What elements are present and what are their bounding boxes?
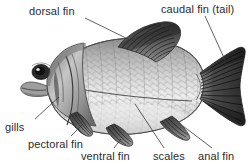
fish-eye [32, 63, 50, 80]
leader-dorsal-fin [85, 18, 130, 40]
label-anal-fin: anal fin [198, 150, 234, 162]
label-scales: scales [153, 150, 185, 162]
anal-fin [160, 116, 190, 141]
fish-anatomy-diagram: dorsal fin caudal fin (tail) gills pecto… [0, 0, 251, 164]
label-ventral-fin: ventral fin [81, 150, 130, 162]
label-caudal-fin: caudal fin (tail) [161, 3, 234, 15]
leader-caudal-fin [205, 16, 225, 60]
label-pectoral-fin: pectoral fin [28, 138, 83, 150]
caudal-fin [196, 44, 250, 128]
label-gills: gills [5, 121, 24, 133]
label-dorsal-fin: dorsal fin [29, 5, 75, 17]
